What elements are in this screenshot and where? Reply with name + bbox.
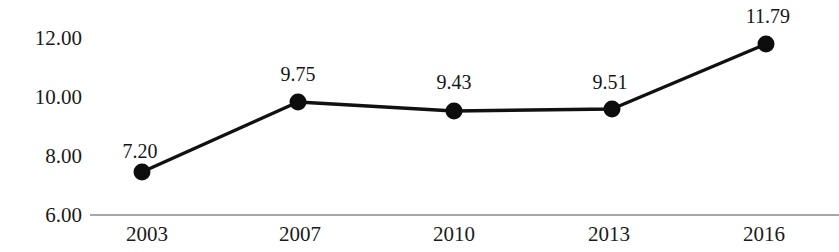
data-point-marker [134, 164, 151, 181]
plot-area [0, 0, 839, 252]
data-point-label: 9.75 [248, 64, 348, 84]
data-point-marker [446, 103, 463, 120]
data-point-marker [758, 36, 775, 53]
data-point-marker [604, 101, 621, 118]
x-axis-tick-label: 2013 [559, 224, 659, 245]
x-axis-tick-label: 2003 [97, 224, 197, 245]
x-axis-tick-label: 2010 [404, 224, 504, 245]
data-point-label: 11.79 [718, 6, 818, 26]
data-point-label: 9.51 [560, 72, 660, 92]
x-axis-tick-label: 2007 [250, 224, 350, 245]
data-point-label: 7.20 [90, 141, 190, 161]
data-point-marker [290, 94, 307, 111]
line-chart: 12.00 10.00 8.00 6.00 7.20 9.75 9.43 9.5… [0, 0, 839, 252]
x-axis-tick-label: 2016 [714, 224, 814, 245]
data-point-label: 9.43 [404, 72, 504, 92]
